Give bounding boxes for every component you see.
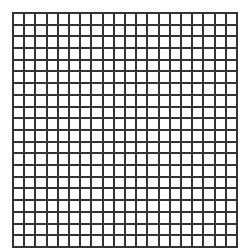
grid-cell	[115, 131, 126, 143]
grid-cell	[70, 178, 81, 190]
grid-cell	[148, 131, 159, 143]
grid-cell	[81, 108, 92, 120]
grid-cell	[126, 72, 137, 84]
grid-cell	[126, 119, 137, 131]
grid-cell	[160, 37, 171, 49]
grid-cell	[182, 178, 193, 190]
grid-cell	[182, 201, 193, 213]
grid-cell	[70, 201, 81, 213]
grid-cell	[148, 108, 159, 120]
grid-cell	[137, 14, 148, 26]
grid-cell	[227, 178, 238, 190]
grid-cell	[115, 61, 126, 73]
grid-cell	[227, 236, 238, 248]
grid-cell	[104, 201, 115, 213]
grid-cell	[104, 14, 115, 26]
grid-cell	[59, 154, 70, 166]
grid-cell	[92, 225, 103, 237]
grid-cell	[14, 143, 25, 155]
grid-cell	[14, 225, 25, 237]
grid-cell	[126, 37, 137, 49]
grid-cell	[182, 189, 193, 201]
grid-cell	[92, 131, 103, 143]
grid-cell	[137, 166, 148, 178]
grid-cell	[193, 154, 204, 166]
grid-cell	[182, 49, 193, 61]
grid-cell	[227, 154, 238, 166]
grid-cell	[227, 84, 238, 96]
grid-cell	[70, 108, 81, 120]
grid-cell	[126, 14, 137, 26]
grid-cell	[216, 49, 227, 61]
grid-cell	[70, 189, 81, 201]
grid-cell	[48, 119, 59, 131]
grid-cell	[25, 119, 36, 131]
grid-cell	[193, 213, 204, 225]
grid-cell	[92, 108, 103, 120]
grid-cell	[59, 14, 70, 26]
grid-cell	[227, 14, 238, 26]
grid-cell	[104, 189, 115, 201]
grid-cell	[137, 154, 148, 166]
grid-cell	[137, 178, 148, 190]
grid-cell	[227, 96, 238, 108]
grid-cell	[126, 225, 137, 237]
grid-cell	[160, 166, 171, 178]
grid-cell	[81, 201, 92, 213]
grid-cell	[137, 189, 148, 201]
grid-cell	[193, 72, 204, 84]
grid-cell	[137, 37, 148, 49]
grid-cell	[193, 108, 204, 120]
grid-cell	[137, 225, 148, 237]
grid-cell	[193, 166, 204, 178]
grid-cell	[115, 119, 126, 131]
grid-cell	[14, 108, 25, 120]
grid-cell	[193, 37, 204, 49]
grid-cell	[126, 108, 137, 120]
grid-cell	[204, 201, 215, 213]
grid-cell	[48, 84, 59, 96]
grid-cell	[204, 225, 215, 237]
grid-cell	[126, 131, 137, 143]
grid-cell	[115, 26, 126, 38]
grid-cell	[171, 49, 182, 61]
grid-cell	[36, 154, 47, 166]
grid-cell	[160, 26, 171, 38]
grid-cell	[92, 37, 103, 49]
grid-cell	[227, 143, 238, 155]
grid-cell	[70, 49, 81, 61]
grid-cell	[148, 96, 159, 108]
grid-cell	[160, 119, 171, 131]
grid-cell	[115, 49, 126, 61]
grid-cell	[70, 154, 81, 166]
grid-cell	[48, 72, 59, 84]
grid-cell	[104, 61, 115, 73]
grid-cell	[70, 72, 81, 84]
grid-cell	[25, 166, 36, 178]
grid-cell	[227, 108, 238, 120]
grid-cell	[171, 37, 182, 49]
grid-cell	[25, 49, 36, 61]
grid-cell	[148, 201, 159, 213]
grid-cell	[137, 49, 148, 61]
grid-cell	[216, 108, 227, 120]
grid-cell	[36, 189, 47, 201]
grid-cell	[104, 96, 115, 108]
grid-cell	[81, 49, 92, 61]
grid-cell	[137, 131, 148, 143]
grid-cell	[193, 49, 204, 61]
grid-cell	[126, 154, 137, 166]
grid-cell	[14, 236, 25, 248]
grid-cell	[14, 154, 25, 166]
grid-cell	[59, 72, 70, 84]
grid-cell	[160, 236, 171, 248]
grid-cell	[36, 49, 47, 61]
grid-cell	[193, 14, 204, 26]
grid-cell	[148, 236, 159, 248]
grid-cell	[25, 26, 36, 38]
grid-cell	[115, 143, 126, 155]
grid-cell	[25, 72, 36, 84]
grid-cell	[160, 225, 171, 237]
grid-cell	[92, 213, 103, 225]
grid-cell	[70, 84, 81, 96]
